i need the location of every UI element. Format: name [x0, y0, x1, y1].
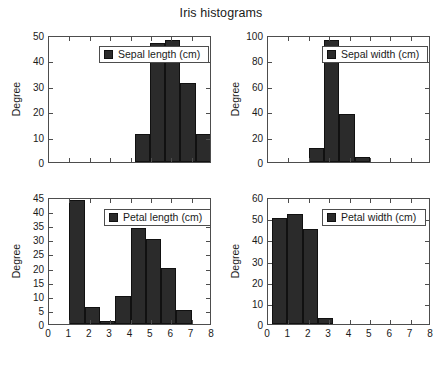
- legend-label: Petal length (cm): [123, 212, 202, 223]
- bar: [318, 318, 333, 324]
- y-tick-label: 50: [252, 214, 263, 225]
- x-tick: [411, 199, 412, 203]
- x-tick: [350, 199, 351, 203]
- y-tick: [425, 263, 429, 264]
- x-tick-label: 1: [285, 328, 291, 339]
- x-tick-label: 4: [346, 328, 352, 339]
- x-tick: [411, 320, 412, 324]
- bar: [303, 229, 318, 324]
- y-tick: [268, 263, 272, 264]
- legend-swatch-icon: [327, 50, 336, 59]
- y-tick: [425, 305, 429, 306]
- x-tick-label: 2: [305, 328, 311, 339]
- x-tick: [370, 199, 371, 203]
- legend-swatch-icon: [104, 50, 113, 59]
- x-tick-label: 3: [325, 328, 331, 339]
- y-axis-title-petal-width: Degree: [229, 231, 241, 291]
- x-tick-label: 7: [407, 328, 413, 339]
- y-tick: [425, 284, 429, 285]
- legend-label: Petal width (cm): [341, 212, 416, 223]
- x-tick: [390, 320, 391, 324]
- x-tick-label: 6: [386, 328, 392, 339]
- y-tick: [268, 241, 272, 242]
- legend-label: Sepal length (cm): [118, 49, 200, 60]
- bar: [272, 218, 287, 324]
- legend-sepal-width[interactable]: Sepal width (cm): [322, 46, 428, 63]
- x-tick: [329, 199, 330, 203]
- y-tick: [425, 241, 429, 242]
- y-tick-label: 60: [252, 193, 263, 204]
- y-tick-label: 30: [252, 256, 263, 267]
- bar: [287, 214, 302, 324]
- y-tick: [268, 284, 272, 285]
- y-tick-label: 10: [252, 298, 263, 309]
- y-tick-label: 0: [257, 320, 263, 331]
- x-tick: [288, 199, 289, 203]
- legend-petal-width[interactable]: Petal width (cm): [322, 209, 426, 226]
- legend-petal-length[interactable]: Petal length (cm): [104, 209, 211, 226]
- legend-sepal-length[interactable]: Sepal length (cm): [99, 46, 209, 63]
- x-tick: [309, 320, 310, 324]
- x-tick-label: 8: [427, 328, 433, 339]
- legend-swatch-icon: [109, 213, 118, 222]
- x-tick: [309, 199, 310, 203]
- x-axis-labels-petal-width: 012345678: [267, 328, 430, 342]
- legend-swatch-icon: [327, 213, 336, 222]
- y-tick-label: 20: [252, 277, 263, 288]
- x-tick-label: 5: [366, 328, 372, 339]
- figure-canvas: Iris histograms 01020304050DegreeSepal l…: [0, 0, 442, 367]
- x-tick: [370, 320, 371, 324]
- y-tick: [268, 305, 272, 306]
- y-tick: [268, 220, 272, 221]
- x-tick: [390, 199, 391, 203]
- x-tick-label: 0: [264, 328, 270, 339]
- x-tick: [288, 320, 289, 324]
- x-tick: [329, 320, 330, 324]
- x-tick: [350, 320, 351, 324]
- y-tick-label: 40: [252, 235, 263, 246]
- legend-label: Sepal width (cm): [341, 49, 419, 60]
